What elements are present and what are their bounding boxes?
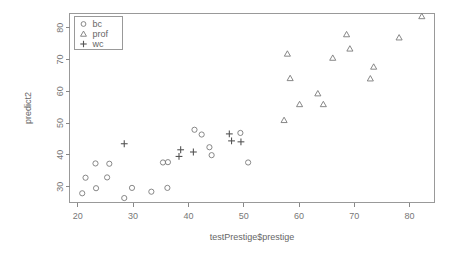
data-point-bc [207,145,212,150]
data-point-prof [281,117,287,122]
data-point-prof [371,64,377,69]
x-tick-label: 30 [128,211,138,221]
y-tick-label: 30 [56,182,66,192]
data-point-bc [122,195,127,200]
data-point-bc [83,175,88,180]
data-point-wc [238,138,245,145]
data-point-prof [315,91,321,96]
series-bc [80,127,251,200]
data-point-wc [190,149,197,156]
y-tick-label: 40 [56,150,66,160]
data-point-prof [284,51,290,56]
y-tick-label: 60 [56,86,66,96]
x-tick-label: 40 [183,211,193,221]
data-point-wc [177,146,184,153]
data-point-wc [121,140,128,147]
data-point-prof [347,46,353,51]
y-axis: 304050607080 [56,23,70,192]
data-point-bc [105,175,110,180]
data-point-bc [107,161,112,166]
x-tick-label: 20 [73,211,83,221]
scatter-plot-canvas: 20304050607080testPrestige$prestige30405… [0,0,455,260]
data-point-prof [367,76,373,81]
y-tick-label: 80 [56,23,66,33]
x-tick-label: 80 [405,211,415,221]
data-point-bc [93,186,98,191]
x-tick-label: 70 [349,211,359,221]
data-point-prof [320,101,326,106]
x-axis: 20304050607080 [73,203,415,221]
data-point-prof [330,55,336,60]
data-point-prof [297,101,303,106]
series-prof [281,13,425,122]
data-point-bc [160,160,165,165]
y-tick-label: 70 [56,55,66,65]
data-point-bc [165,185,170,190]
legend-label-bc: bc [93,19,103,29]
data-point-bc [199,132,204,137]
r-plot-window: 20304050607080testPrestige$prestige30405… [0,0,455,260]
y-tick-label: 50 [56,118,66,128]
series-wc [121,130,244,159]
data-point-prof [344,31,350,36]
x-axis-title: testPrestige$prestige [210,232,295,242]
data-point-wc [226,130,233,137]
data-point-prof [287,75,293,80]
legend: bcprofwc [75,17,123,50]
x-tick-label: 50 [239,211,249,221]
legend-label-wc: wc [92,39,104,49]
data-point-bc [192,127,197,132]
data-point-bc [129,185,134,190]
data-point-bc [93,161,98,166]
data-point-bc [165,160,170,165]
data-point-bc [238,130,243,135]
legend-label-prof: prof [93,29,109,39]
data-point-prof [419,13,425,18]
data-point-wc [228,137,235,144]
plot-frame [70,14,435,203]
data-point-prof [396,35,402,40]
y-axis-title: predict2 [23,92,33,124]
data-point-wc [176,153,183,160]
data-point-bc [209,153,214,158]
data-point-bc [80,191,85,196]
x-tick-label: 60 [294,211,304,221]
data-point-bc [246,160,251,165]
data-point-bc [149,189,154,194]
